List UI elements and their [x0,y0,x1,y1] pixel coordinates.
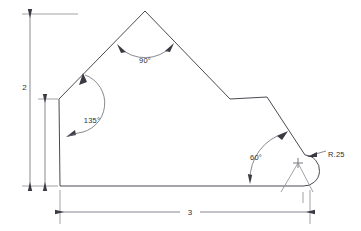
apex-arrow-left [117,44,126,53]
radius-arrow [307,152,317,157]
inner-arrow-top [43,94,47,103]
apex-arrow-right [165,43,174,52]
apex-angle-group: 90° [117,43,174,65]
radius-label: R.25 [328,150,345,159]
left-angle-arrow-bottom [66,130,76,137]
left-angle-arrow-top [79,73,87,85]
radius-construction-line-left [281,163,298,192]
width-dimension-group: 3 [55,190,315,224]
cad-drawing-svg: 2 3 90° [0,0,361,231]
width-arrow-left [55,210,64,214]
part-outline-path [59,11,320,186]
radius-construction-line-right [298,163,313,192]
apex-angle-label: 90° [139,56,151,65]
height-dimension-group: 2 [22,9,78,191]
height-arrow-top [28,9,32,18]
inner-arrow-bottom [43,182,47,191]
left-angle-group: 135° [66,73,105,137]
left-angle-label: 135° [84,116,100,125]
lower-right-angle-group: 60° [248,131,288,184]
width-dimension-label: 3 [188,208,193,217]
lower-right-arrow-lower [248,174,252,184]
height-dimension-label: 2 [22,83,27,92]
inner-height-dimension-group [38,94,58,191]
lower-right-arrow-upper [277,131,288,140]
technical-drawing-canvas: 2 3 90° [0,0,361,231]
width-arrow-right [306,210,315,214]
part-outline-group [59,11,320,186]
lower-right-angle-label: 60° [250,153,262,162]
height-arrow-bottom [28,182,32,191]
